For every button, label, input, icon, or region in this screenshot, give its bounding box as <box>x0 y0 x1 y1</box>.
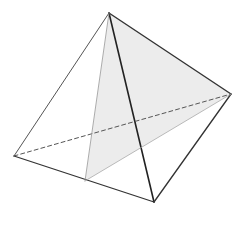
shaded-cross-section <box>85 13 231 181</box>
edge-BC <box>14 156 154 202</box>
tetrahedron-diagram <box>0 0 245 226</box>
